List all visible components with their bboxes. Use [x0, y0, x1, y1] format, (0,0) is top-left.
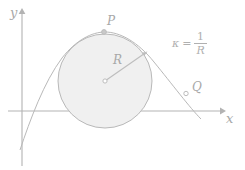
- y-axis-arrowhead: [19, 8, 26, 14]
- one-over-r-fraction: 1 R: [194, 31, 206, 56]
- point-p-label: P: [107, 15, 115, 27]
- circle-center-point: [103, 79, 107, 83]
- point-q-marker: [184, 91, 188, 95]
- kappa-symbol: κ: [172, 37, 179, 50]
- x-axis-label: x: [226, 112, 233, 125]
- point-p-marker: [102, 30, 107, 35]
- fraction-denominator: R: [194, 44, 206, 56]
- figure-container: y x P Q R κ = 1 R: [0, 0, 245, 170]
- radius-label: R: [113, 54, 122, 66]
- y-axis-label: y: [10, 6, 17, 19]
- equals-sign: =: [182, 37, 191, 50]
- geometry-canvas: [0, 0, 245, 170]
- point-q-label: Q: [192, 81, 202, 93]
- curvature-formula: κ = 1 R: [172, 31, 207, 56]
- fraction-numerator: 1: [195, 31, 206, 43]
